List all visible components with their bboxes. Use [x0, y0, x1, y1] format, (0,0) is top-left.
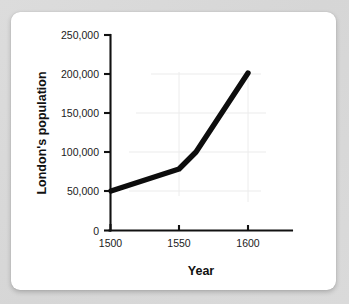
y-tick-label-0: 0 [93, 225, 99, 237]
chart-page: 250,000 200,000 150,000 100,000 50,000 0… [0, 0, 349, 304]
y-tick-label-100000: 100,000 [61, 146, 99, 158]
y-tick-label-250000: 250,000 [61, 29, 99, 41]
y-tick-label-200000: 200,000 [61, 68, 99, 80]
x-tick-label-1500: 1500 [99, 237, 123, 249]
x-axis-title: Year [188, 264, 215, 278]
y-tick-label-150000: 150,000 [61, 107, 99, 119]
gridlines-horizontal [129, 74, 266, 191]
x-tick-label-1600: 1600 [236, 237, 260, 249]
chart-card: 250,000 200,000 150,000 100,000 50,000 0… [11, 12, 336, 290]
y-axis-title: London's population [35, 71, 49, 194]
y-tick-label-50000: 50,000 [67, 185, 99, 197]
line-chart: 250,000 200,000 150,000 100,000 50,000 0… [11, 12, 336, 290]
x-tick-label-1550: 1550 [167, 237, 191, 249]
